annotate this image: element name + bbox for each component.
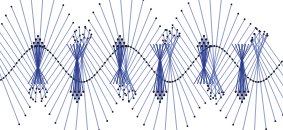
spider-fan [194, 35, 214, 84]
lace-pattern-diagram: Bobbin lace pricking pattern [0, 0, 283, 130]
spider-fan [232, 44, 252, 103]
lace-pattern-canvas [0, 0, 283, 130]
